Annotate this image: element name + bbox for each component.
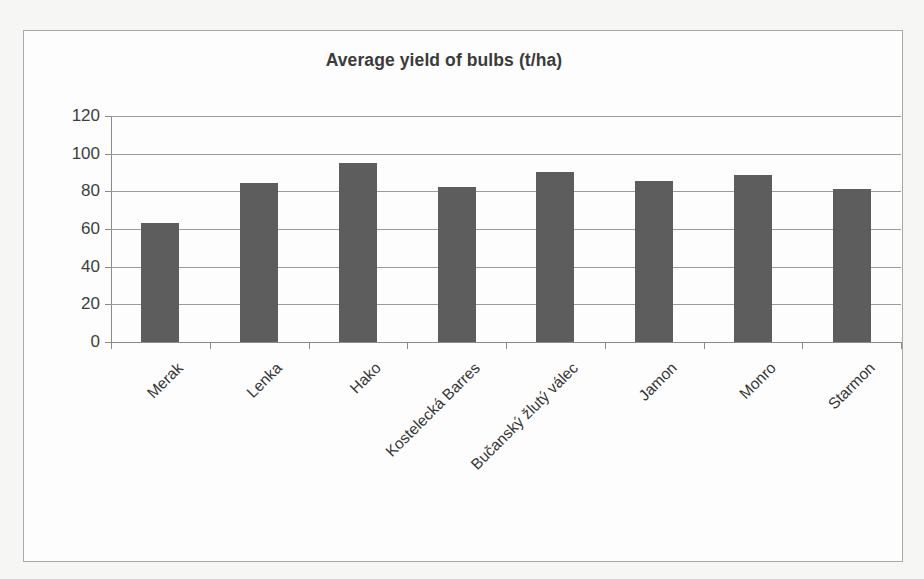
x-axis-label-jamon: Jamon [668, 326, 714, 372]
y-axis-tick-80 [105, 191, 111, 192]
plot-area: 020406080100120 MerakLenkaHakoKostelecká… [111, 116, 901, 342]
bar-hako[interactable] [339, 163, 377, 342]
scanned-page-background: Average yield of bulbs (t/ha) 0204060801… [0, 0, 924, 579]
y-axis-tick-100 [105, 154, 111, 155]
gridline-80 [111, 191, 901, 192]
y-axis-tick-60 [105, 229, 111, 230]
bar-bučanský-žlutý-válec[interactable] [536, 172, 574, 342]
y-axis-label-0: 0 [91, 332, 100, 352]
x-axis-label-hako: Hako [372, 333, 410, 371]
x-axis-label-text: Jamon [635, 359, 681, 405]
x-axis-label-text: Hako [346, 359, 384, 397]
gridline-20 [111, 304, 901, 305]
x-axis-label-text: Lenka [243, 359, 286, 402]
y-axis-tick-120 [105, 116, 111, 117]
chart-title: Average yield of bulbs (t/ha) [24, 50, 864, 71]
x-axis-label-text: Kostelecká Barres [382, 359, 484, 461]
y-axis-label-20: 20 [81, 294, 100, 314]
y-axis-label-60: 60 [81, 219, 100, 239]
y-axis-label-100: 100 [72, 144, 100, 164]
x-axis-label-lenka: Lenka [273, 329, 316, 372]
bar-starmon[interactable] [833, 189, 871, 342]
y-axis-label-80: 80 [81, 181, 100, 201]
gridline-60 [111, 229, 901, 230]
x-axis-label-starmon: Starmon [866, 318, 920, 372]
chart-frame: Average yield of bulbs (t/ha) 0204060801… [23, 30, 903, 562]
bar-monro[interactable] [734, 175, 772, 342]
bar-kostelecká-barres[interactable] [438, 187, 476, 342]
gridline-120 [111, 116, 901, 117]
bar-merak[interactable] [141, 223, 179, 342]
y-axis-tick-40 [105, 267, 111, 268]
x-axis-label-text: Merak [144, 359, 187, 402]
y-axis-label-120: 120 [72, 106, 100, 126]
gridline-40 [111, 267, 901, 268]
bar-lenka[interactable] [240, 183, 278, 342]
y-axis-tick-20 [105, 304, 111, 305]
y-axis-label-40: 40 [81, 257, 100, 277]
x-axis-label-text: Starmon [824, 359, 878, 413]
x-axis-label-monro: Monro [767, 328, 811, 372]
x-axis-label-text: Monro [736, 359, 780, 403]
gridline-100 [111, 154, 901, 155]
x-axis-tick-origin [111, 342, 112, 349]
x-axis-label-merak: Merak [174, 329, 217, 372]
x-axis-label-text: Bučanský žlutý válec [468, 359, 582, 473]
